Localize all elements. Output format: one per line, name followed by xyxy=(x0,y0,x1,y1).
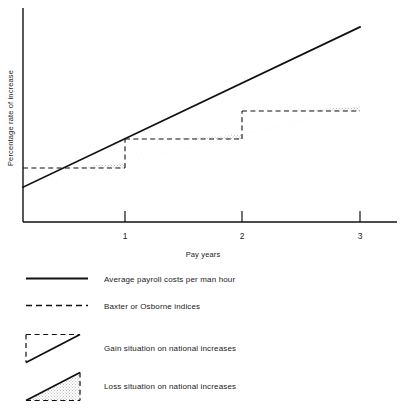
chart-figure: 1 2 3 Pay years Percentage rate of incre… xyxy=(0,0,406,415)
x-tick-label-1: 1 xyxy=(123,231,128,241)
legend-label-gain-situation: Gain situation on national increases xyxy=(104,344,236,353)
legend-label-loss-situation: Loss situation on national increases xyxy=(104,382,236,391)
y-axis-title: Percentage rate of increase xyxy=(6,70,15,166)
x-tick-label-3: 3 xyxy=(358,231,363,241)
legend-label-average-payroll: Average payroll costs per man hour xyxy=(104,275,235,284)
x-axis-title: Pay years xyxy=(186,250,221,259)
x-tick-label-2: 2 xyxy=(240,231,245,241)
legend-label-baxter-osborne: Baxter or Osborne indices xyxy=(104,302,200,311)
